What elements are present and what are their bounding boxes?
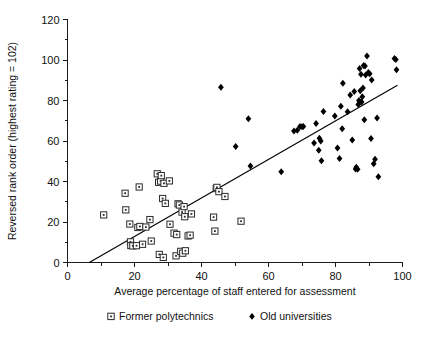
- point-former-polytechnics: [147, 216, 153, 222]
- point-former-polytechnics: [139, 241, 145, 247]
- marker-center-dot: [149, 219, 151, 221]
- point-former-polytechnics: [160, 254, 166, 260]
- point-former-polytechnics: [133, 243, 139, 249]
- marker-center-dot: [162, 257, 164, 259]
- point-former-polytechnics: [158, 173, 164, 179]
- marker-center-dot: [214, 230, 216, 232]
- point-former-polytechnics: [222, 193, 228, 199]
- marker-center-dot: [184, 216, 186, 218]
- marker-center-dot: [164, 202, 166, 204]
- x-tick-label: 20: [128, 270, 140, 282]
- point-old-universities: [345, 108, 351, 115]
- series-former-polytechnics-points: [101, 171, 245, 261]
- point-old-universities: [332, 113, 338, 120]
- marker-center-dot: [175, 255, 177, 257]
- point-old-universities: [361, 116, 367, 123]
- x-tick-label: 100: [393, 270, 411, 282]
- marker-center-dot: [160, 175, 162, 177]
- point-former-polytechnics: [174, 231, 180, 237]
- marker-center-dot: [213, 216, 215, 218]
- regression-line-group: [89, 85, 397, 262]
- marker-center-dot: [240, 220, 242, 222]
- marker-center-dot: [218, 191, 220, 193]
- legend-square-dot: [110, 316, 112, 318]
- marker-center-dot: [142, 243, 144, 245]
- point-former-polytechnics: [143, 224, 149, 230]
- y-tick-label: 40: [47, 176, 59, 188]
- marker-center-dot: [129, 223, 131, 225]
- marker-center-dot: [183, 206, 185, 208]
- legend-marker-old-universities: [249, 313, 255, 320]
- point-old-universities: [340, 80, 346, 87]
- point-old-universities: [316, 147, 322, 154]
- marker-center-dot: [150, 240, 152, 242]
- point-old-universities: [376, 173, 382, 180]
- marker-center-dot: [216, 186, 218, 188]
- y-tick-label: 20: [47, 216, 59, 228]
- marker-center-dot: [185, 250, 187, 252]
- point-former-polytechnics: [137, 223, 143, 229]
- legend-marker-former-polytechnics: [108, 313, 114, 319]
- x-axis-title: Average percentage of staff entered for …: [114, 285, 355, 297]
- point-old-universities: [349, 136, 355, 143]
- point-former-polytechnics: [210, 214, 216, 220]
- point-old-universities: [319, 157, 325, 164]
- marker-center-dot: [189, 234, 191, 236]
- y-tick-label: 100: [41, 54, 59, 66]
- y-tick-label: 120: [41, 14, 59, 26]
- chart-canvas: 020406080100120020406080100 Average perc…: [0, 0, 423, 340]
- point-former-polytechnics: [127, 221, 133, 227]
- marker-center-dot: [136, 245, 138, 247]
- point-former-polytechnics: [182, 248, 188, 254]
- point-old-universities: [337, 155, 343, 162]
- point-former-polytechnics: [212, 228, 218, 234]
- x-tick-label: 80: [329, 270, 341, 282]
- point-old-universities: [311, 140, 317, 147]
- point-former-polytechnics: [166, 178, 172, 184]
- legend: Former polytechnicsOld universities: [108, 310, 332, 322]
- point-former-polytechnics: [162, 200, 168, 206]
- point-old-universities: [358, 71, 364, 78]
- point-old-universities: [368, 135, 374, 142]
- point-former-polytechnics: [122, 190, 128, 196]
- series-old-universities-points: [218, 52, 399, 180]
- marker-center-dot: [138, 186, 140, 188]
- point-former-polytechnics: [216, 189, 222, 195]
- point-old-universities: [321, 108, 327, 115]
- point-old-universities: [246, 115, 252, 122]
- y-axis-title: Reversed rank order (highest rating = 10…: [6, 42, 18, 240]
- point-former-polytechnics: [167, 221, 173, 227]
- point-former-polytechnics: [187, 232, 193, 238]
- point-old-universities: [335, 144, 341, 151]
- marker-center-dot: [125, 209, 127, 211]
- x-tick-label: 60: [262, 270, 274, 282]
- y-tick-label: 0: [53, 257, 59, 269]
- point-former-polytechnics: [123, 207, 129, 213]
- marker-center-dot: [124, 192, 126, 194]
- legend-label-old-universities: Old universities: [260, 310, 332, 322]
- point-old-universities: [394, 66, 400, 73]
- marker-center-dot: [163, 182, 165, 184]
- axes-group: 020406080100120020406080100: [41, 14, 412, 282]
- point-former-polytechnics: [181, 204, 187, 210]
- point-old-universities: [218, 84, 224, 91]
- point-former-polytechnics: [136, 184, 142, 190]
- point-former-polytechnics: [148, 238, 154, 244]
- point-old-universities: [339, 125, 345, 132]
- point-former-polytechnics: [101, 212, 107, 218]
- point-former-polytechnics: [182, 214, 188, 220]
- marker-center-dot: [181, 211, 183, 213]
- marker-center-dot: [145, 226, 147, 228]
- point-old-universities: [233, 143, 239, 150]
- x-tick-label: 0: [64, 270, 70, 282]
- scatter-plot-figure: 020406080100120020406080100 Average perc…: [0, 0, 423, 340]
- point-old-universities: [374, 114, 380, 121]
- point-old-universities: [313, 120, 319, 127]
- point-old-universities: [369, 77, 375, 84]
- point-old-universities: [364, 52, 370, 59]
- x-tick-label: 40: [195, 270, 207, 282]
- marker-center-dot: [178, 204, 180, 206]
- marker-center-dot: [224, 196, 226, 198]
- marker-center-dot: [191, 213, 193, 215]
- point-former-polytechnics: [238, 218, 244, 224]
